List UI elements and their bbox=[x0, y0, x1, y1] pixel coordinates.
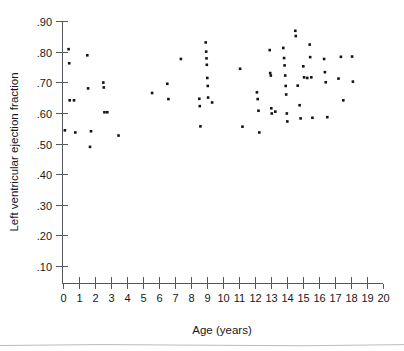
data-point bbox=[283, 64, 286, 67]
page-bottom-rule bbox=[0, 345, 404, 346]
data-point bbox=[167, 98, 170, 101]
data-point bbox=[67, 48, 70, 51]
data-point bbox=[284, 74, 287, 77]
data-point bbox=[286, 112, 289, 115]
data-point bbox=[257, 109, 260, 112]
x-axis-title: Age (years) bbox=[192, 324, 252, 336]
y-tick-label: .50 bbox=[37, 139, 52, 151]
data-point bbox=[286, 120, 289, 123]
x-tick-label: 8 bbox=[188, 292, 194, 304]
data-point bbox=[73, 99, 76, 102]
data-point bbox=[323, 58, 326, 61]
data-point bbox=[86, 54, 89, 57]
data-point bbox=[198, 97, 201, 100]
data-point bbox=[324, 71, 327, 74]
data-point bbox=[274, 110, 277, 113]
y-axis-title: Left ventricular ejection fraction bbox=[8, 72, 20, 231]
data-point bbox=[180, 58, 183, 61]
data-point bbox=[207, 96, 210, 99]
x-tick-label: 18 bbox=[345, 292, 357, 304]
scatter-plot: .10.20.30.40.50.60.70.80.90 012345678910… bbox=[0, 0, 404, 351]
data-point bbox=[309, 56, 312, 59]
x-tick-label: 10 bbox=[217, 292, 229, 304]
data-point bbox=[299, 117, 302, 120]
y-tick-label: .10 bbox=[37, 261, 52, 273]
data-point bbox=[87, 87, 90, 90]
data-point bbox=[337, 77, 340, 80]
y-tick-label: .60 bbox=[37, 108, 52, 120]
x-tick-label: 1 bbox=[76, 292, 82, 304]
x-tick-label: 20 bbox=[377, 292, 389, 304]
x-tick-label: 19 bbox=[361, 292, 373, 304]
data-point bbox=[117, 134, 120, 137]
data-point bbox=[102, 81, 105, 84]
data-point bbox=[89, 146, 92, 149]
data-point bbox=[282, 47, 285, 50]
x-tick-label: 5 bbox=[140, 292, 146, 304]
x-axis-ticks bbox=[64, 277, 384, 289]
data-point bbox=[269, 72, 272, 75]
x-axis-tick-labels: 01234567891011121314151617181920 bbox=[60, 292, 389, 304]
data-point bbox=[303, 76, 306, 79]
y-axis-tick-labels: .10.20.30.40.50.60.70.80.90 bbox=[37, 16, 52, 273]
data-point bbox=[324, 81, 327, 84]
data-point bbox=[302, 65, 305, 68]
x-tick-label: 15 bbox=[297, 292, 309, 304]
data-point bbox=[198, 105, 201, 108]
data-point bbox=[306, 77, 309, 80]
y-tick-label: .90 bbox=[37, 16, 52, 28]
data-point bbox=[241, 125, 244, 128]
x-tick-label: 4 bbox=[124, 292, 130, 304]
data-points-layer bbox=[64, 30, 355, 149]
x-tick-label: 0 bbox=[60, 292, 66, 304]
y-tick-label: .30 bbox=[37, 200, 52, 212]
data-point bbox=[285, 93, 288, 96]
x-tick-label: 7 bbox=[172, 292, 178, 304]
data-point bbox=[205, 57, 208, 60]
data-point bbox=[90, 130, 93, 133]
data-point bbox=[256, 91, 259, 94]
data-point bbox=[68, 99, 71, 102]
data-point bbox=[294, 30, 297, 33]
data-point bbox=[283, 57, 286, 60]
data-point bbox=[342, 99, 345, 102]
y-tick-label: .80 bbox=[37, 47, 52, 59]
x-tick-label: 17 bbox=[329, 292, 341, 304]
data-point bbox=[352, 80, 355, 83]
data-point bbox=[268, 49, 271, 52]
data-point bbox=[166, 82, 169, 85]
figure-container: .10.20.30.40.50.60.70.80.90 012345678910… bbox=[0, 0, 404, 351]
x-tick-label: 16 bbox=[313, 292, 325, 304]
x-tick-label: 13 bbox=[265, 292, 277, 304]
data-point bbox=[205, 50, 208, 53]
x-tick-label: 11 bbox=[234, 292, 245, 304]
data-point bbox=[206, 63, 209, 66]
data-point bbox=[206, 77, 209, 80]
data-point bbox=[270, 74, 273, 77]
data-point bbox=[311, 116, 314, 119]
data-point bbox=[340, 56, 343, 59]
data-point bbox=[102, 86, 105, 89]
x-tick-label: 2 bbox=[92, 292, 98, 304]
data-point bbox=[206, 85, 209, 88]
data-point bbox=[326, 116, 329, 119]
y-tick-label: .70 bbox=[37, 77, 52, 89]
data-point bbox=[103, 111, 106, 114]
data-point bbox=[296, 84, 299, 87]
data-point bbox=[284, 85, 287, 88]
data-point bbox=[294, 35, 297, 38]
data-point bbox=[64, 129, 67, 132]
data-point bbox=[239, 67, 242, 70]
data-point bbox=[151, 92, 154, 95]
x-tick-label: 6 bbox=[156, 292, 162, 304]
data-point bbox=[204, 41, 207, 44]
data-point bbox=[308, 43, 311, 46]
data-point bbox=[256, 98, 259, 101]
x-tick-label: 9 bbox=[204, 292, 210, 304]
data-point bbox=[199, 125, 202, 128]
data-point bbox=[106, 111, 109, 114]
data-point bbox=[258, 131, 261, 134]
data-point bbox=[351, 55, 354, 58]
data-point bbox=[298, 104, 301, 107]
data-point bbox=[74, 131, 77, 134]
